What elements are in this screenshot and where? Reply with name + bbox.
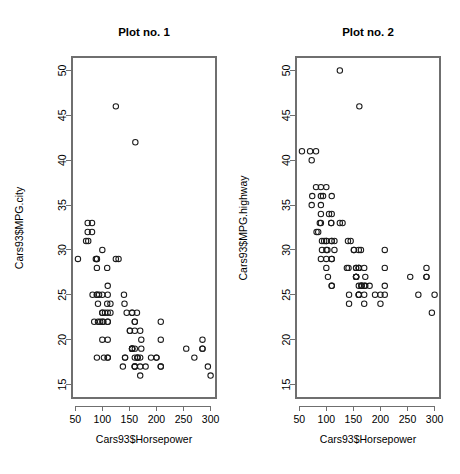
data-point [309, 158, 314, 163]
data-point [122, 301, 127, 306]
data-point [378, 301, 383, 306]
data-point [362, 292, 367, 297]
y-tick-label: 25 [56, 289, 68, 301]
x-tick-label: 300 [426, 413, 444, 425]
data-point [346, 301, 351, 306]
data-point [363, 274, 368, 279]
data-point [121, 292, 126, 297]
data-point [104, 265, 109, 270]
data-point [120, 364, 125, 369]
data-point [309, 202, 314, 207]
data-point [158, 319, 163, 324]
data-point [158, 337, 163, 342]
scatter-plot-2-svg: Plot no. 2 1520253035404550 501001502002… [230, 0, 460, 474]
x-tick-label: 250 [399, 413, 417, 425]
x-axis-label: Cars93$Horsepower [320, 433, 417, 445]
data-point [139, 337, 144, 342]
data-point [154, 355, 159, 360]
data-point [101, 355, 106, 360]
x-tick-label: 50 [293, 413, 305, 425]
data-point [158, 364, 163, 369]
y-tick-label: 40 [280, 154, 292, 166]
data-point [382, 247, 387, 252]
data-point [208, 373, 213, 378]
data-point [132, 364, 137, 369]
y-tick-label: 40 [56, 154, 68, 166]
plot-frame [72, 57, 216, 398]
data-point [138, 364, 143, 369]
data-point [356, 292, 361, 297]
data-point [357, 104, 362, 109]
data-point [382, 283, 387, 288]
y-axis-label: Cars93$MPG.highway [237, 175, 249, 281]
y-tick-label: 50 [56, 64, 68, 76]
data-point [138, 373, 143, 378]
y-tick-label: 15 [56, 379, 68, 391]
x-tick-label: 250 [175, 413, 193, 425]
data-point [92, 319, 97, 324]
data-point [325, 274, 330, 279]
y-tick-label: 35 [280, 199, 292, 211]
data-point [200, 346, 205, 351]
y-tick-label: 25 [280, 289, 292, 301]
data-point [139, 346, 144, 351]
data-point [113, 104, 118, 109]
x-tick-label: 300 [202, 413, 220, 425]
data-point [372, 292, 377, 297]
data-point [94, 265, 99, 270]
x-tick-label: 50 [69, 413, 81, 425]
y-axis: 1520253035404550 [280, 64, 296, 390]
data-point [329, 256, 334, 261]
data-point [100, 247, 105, 252]
data-points-group [75, 104, 213, 379]
data-points-group [299, 68, 437, 316]
x-tick-label: 100 [94, 413, 112, 425]
plot-title: Plot no. 1 [118, 26, 170, 38]
data-point [94, 355, 99, 360]
data-point [353, 274, 358, 279]
data-point [104, 301, 109, 306]
data-point [205, 364, 210, 369]
y-axis: 1520253035404550 [56, 64, 72, 390]
data-point [424, 265, 429, 270]
chart-panel-plot-1: Plot no. 1 1520253035404550 501001502002… [0, 0, 230, 474]
data-point [105, 337, 110, 342]
data-point [148, 355, 153, 360]
data-point [429, 310, 434, 315]
y-tick-label: 15 [280, 379, 292, 391]
data-point [329, 283, 334, 288]
data-point [133, 140, 138, 145]
x-axis: 50100150200250300 [69, 406, 219, 425]
plot-border [72, 57, 216, 398]
figure-canvas: Plot no. 1 1520253035404550 501001502002… [0, 0, 460, 474]
data-point [299, 149, 304, 154]
data-point [318, 202, 323, 207]
data-point [432, 292, 437, 297]
plot-border [296, 57, 440, 398]
data-point [337, 68, 342, 73]
plot-frame [296, 57, 440, 398]
data-point [318, 256, 323, 261]
data-point [122, 355, 127, 360]
data-point [200, 337, 205, 342]
chart-panel-plot-2: Plot no. 2 1520253035404550 501001502002… [230, 0, 460, 474]
data-point [307, 149, 312, 154]
y-tick-label: 45 [56, 109, 68, 121]
x-tick-label: 150 [121, 413, 139, 425]
data-point [328, 220, 333, 225]
x-tick-label: 200 [148, 413, 166, 425]
data-point [132, 319, 137, 324]
x-tick-label: 100 [318, 413, 336, 425]
x-tick-label: 200 [372, 413, 390, 425]
scatter-plot-1-svg: Plot no. 1 1520253035404550 501001502002… [0, 0, 230, 474]
y-tick-label: 20 [56, 334, 68, 346]
data-point [192, 355, 197, 360]
y-tick-label: 20 [280, 334, 292, 346]
data-point [408, 274, 413, 279]
y-axis-label: Cars93$MPG.city [13, 186, 25, 269]
x-axis-label: Cars93$Horsepower [96, 433, 193, 445]
y-tick-label: 30 [280, 244, 292, 256]
data-point [313, 149, 318, 154]
plot-title: Plot no. 2 [342, 26, 394, 38]
data-point [100, 337, 105, 342]
